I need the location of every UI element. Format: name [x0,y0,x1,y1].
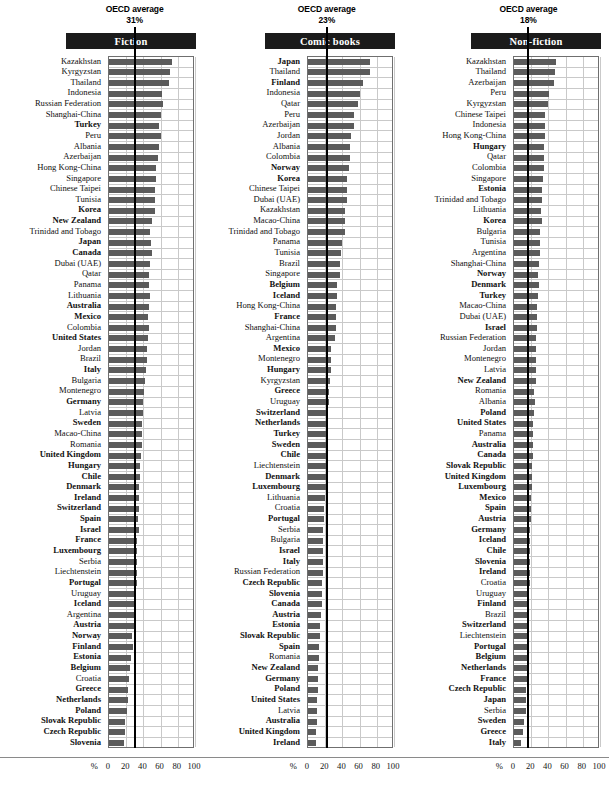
bar [308,453,326,459]
category-label: Turkey [200,428,303,439]
category-label: Singapore [399,173,509,184]
bar [109,633,132,639]
table-row [308,429,392,440]
bar [109,59,172,65]
category-label: Macao-China [200,216,303,227]
bar [109,176,156,182]
category-label: Serbia [0,556,104,567]
table-row [109,642,193,653]
table-row [308,738,392,749]
table-row [109,568,193,579]
category-label: Finland [0,641,104,652]
category-label: Uruguay [0,588,104,599]
category-label: Slovenia [200,588,303,599]
category-label: France [399,673,509,684]
category-label: Croatia [200,503,303,514]
category-label: Dubai (UAE) [200,194,303,205]
category-label: Kazakhstan [0,56,104,67]
category-label: United Kingdom [399,471,509,482]
category-label: Bulgaria [200,535,303,546]
category-label: Turkey [399,290,509,301]
category-label: Ireland [0,492,104,503]
bar [109,304,149,310]
category-label: Croatia [0,673,104,684]
category-label: Latvia [399,365,509,376]
oecd-average-line [527,56,529,748]
table-row [109,557,193,568]
panel-comic-books: OECD average23%Comic booksJapanThailandF… [200,0,399,789]
bar [109,367,146,373]
bar [109,91,162,97]
category-label: Romania [0,439,104,450]
category-label: Germany [399,524,509,535]
bar-rows [308,57,392,747]
category-label: Kazakhstan [200,205,303,216]
category-label: Netherlands [399,663,509,674]
bar [514,623,529,629]
table-row [109,195,193,206]
category-label: Montenegro [200,354,303,365]
category-label: Portugal [399,641,509,652]
table-row [308,589,392,600]
bar [109,197,155,203]
table-row [308,525,392,536]
bar [308,165,349,171]
category-label: Czech Republic [0,726,104,737]
bar [514,69,555,75]
category-label: Denmark [399,279,509,290]
bar [514,719,524,725]
category-label: Ireland [399,567,509,578]
bar [514,314,537,320]
oecd-average-note: OECD average23% [272,4,382,26]
bar [109,591,135,597]
table-row [308,493,392,504]
table-row [109,217,193,228]
category-label: Czech Republic [399,684,509,695]
table-row [308,578,392,589]
bar [514,740,521,746]
panel-title-bar: Non-fiction [471,33,601,49]
table-row [109,674,193,685]
category-label: Poland [200,684,303,695]
bar [308,474,326,480]
category-label: Serbia [399,705,509,716]
category-label: Slovenia [0,737,104,748]
table-row [308,557,392,568]
table-row [308,546,392,557]
bar [514,346,536,352]
x-gridline [195,57,196,747]
category-label: Mexico [399,492,509,503]
bar [514,410,534,416]
table-row [308,142,392,153]
category-label: Finland [399,599,509,610]
category-label: Greece [0,684,104,695]
oecd-average-label: OECD average [500,4,558,14]
table-row [308,483,392,494]
oecd-average-value: 23% [272,15,382,26]
bar [308,293,337,299]
bar [308,112,354,118]
table-row [308,227,392,238]
table-row [308,302,392,313]
bar [308,697,317,703]
table-row [109,323,193,334]
table-row [109,89,193,100]
bar [308,538,323,544]
category-labels: KazakhstanKyrgyzstanThailandIndonesiaRus… [0,56,104,748]
bar [514,59,556,65]
category-label: Peru [0,130,104,141]
category-label: Jordan [200,130,303,141]
axis-unit-label: % [283,761,297,771]
table-row [109,249,193,260]
category-label: United States [200,694,303,705]
panel-non-fiction: OECD average18%Non-fictionKazakhstanThai… [399,0,609,789]
table-row [109,110,193,121]
bar [109,655,131,661]
panel-title-bar: Comic books [265,33,395,49]
bar [308,665,318,671]
category-label: Hungary [0,460,104,471]
table-row [109,525,193,536]
category-label: Tunisia [0,194,104,205]
table-row [109,206,193,217]
category-label: Shanghai-China [0,109,104,120]
